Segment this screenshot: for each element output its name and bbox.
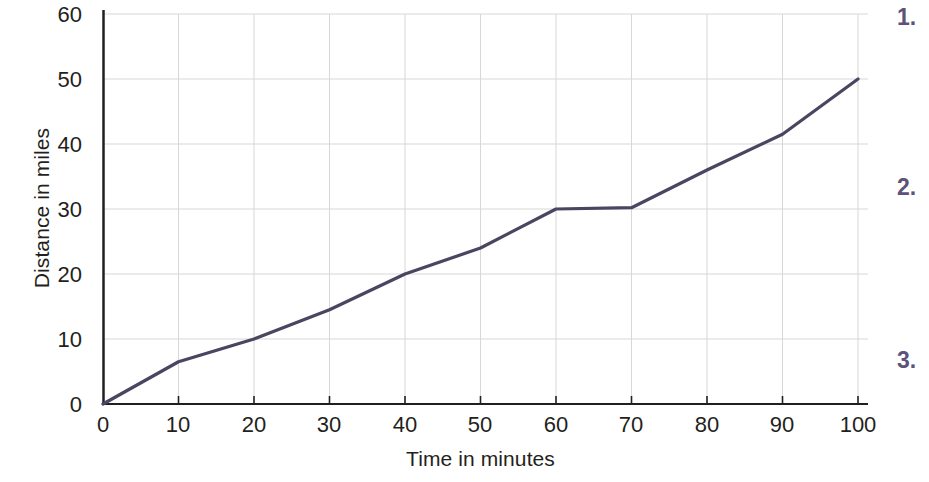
x-tick-label-90: 90 (752, 412, 812, 438)
x-tick-label-60: 60 (526, 412, 586, 438)
y-tick-label-30: 30 (42, 197, 82, 223)
question-list: 1. 2. 3. (880, 0, 929, 482)
question-item-2[interactable]: 2. (897, 174, 916, 201)
y-tick-label-60: 60 (42, 2, 82, 28)
x-tick-label-70: 70 (601, 412, 661, 438)
line-chart-figure: Distance in miles Time in minutes 60 50 … (0, 0, 880, 482)
x-tick-label-80: 80 (677, 412, 737, 438)
x-tick-label-20: 20 (224, 412, 284, 438)
horizontal-gridlines (103, 14, 868, 339)
x-tick-label-40: 40 (375, 412, 435, 438)
x-tick-label-0: 0 (73, 412, 133, 438)
x-axis-label: Time in minutes (103, 447, 858, 471)
y-tick-label-10: 10 (42, 327, 82, 353)
question-item-3[interactable]: 3. (897, 347, 916, 374)
x-tick-label-30: 30 (299, 412, 359, 438)
x-tick-label-50: 50 (450, 412, 510, 438)
chart-plot-svg (0, 0, 880, 482)
y-tick-label-50: 50 (42, 67, 82, 93)
x-tick-label-10: 10 (148, 412, 208, 438)
y-tick-label-40: 40 (42, 132, 82, 158)
y-tick-label-20: 20 (42, 262, 82, 288)
x-axis-ticks (179, 396, 859, 404)
question-item-1[interactable]: 1. (897, 4, 916, 31)
x-tick-label-100: 100 (828, 412, 888, 438)
